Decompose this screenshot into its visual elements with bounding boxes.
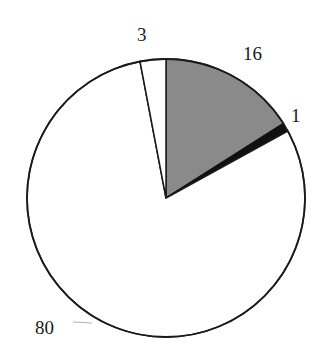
- leader-line-80: [73, 322, 92, 323]
- label-slice-16: 16: [243, 44, 262, 63]
- label-slice-80: 80: [35, 318, 54, 337]
- pie-chart-svg: [0, 0, 329, 364]
- pie-chart: 3 16 1 80: [0, 0, 329, 364]
- label-slice-3: 3: [137, 25, 147, 44]
- label-slice-1: 1: [291, 106, 301, 125]
